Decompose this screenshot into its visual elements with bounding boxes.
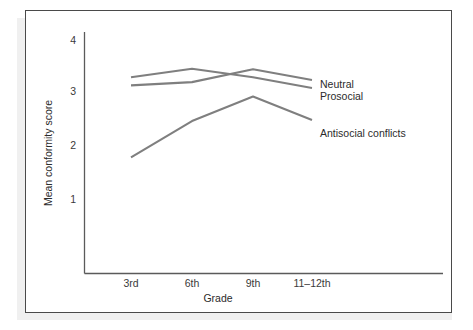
y-tick-label-4: 4 xyxy=(70,34,76,46)
y-axis-title: Mean conformity score xyxy=(42,100,54,206)
series-label-antisocial-conflicts: Antisocial conflicts xyxy=(320,127,406,139)
y-tick-label-3: 3 xyxy=(70,85,76,97)
x-axis-title: Grade xyxy=(203,292,232,304)
line-chart: 4 3 2 1 Mean conformity score 3rd 6th 9t… xyxy=(0,0,473,330)
x-tick-label-11-12th: 11–12th xyxy=(293,277,330,289)
series-label-neutral: Neutral xyxy=(320,78,354,90)
x-tick-label-3rd: 3rd xyxy=(123,277,138,289)
x-tick-label-6th: 6th xyxy=(185,277,200,289)
y-tick-label-2: 2 xyxy=(70,139,76,151)
y-tick-label-1: 1 xyxy=(70,193,76,205)
figure-canvas: 4 3 2 1 Mean conformity score 3rd 6th 9t… xyxy=(0,0,473,330)
series-line-neutral xyxy=(131,69,312,88)
x-tick-label-9th: 9th xyxy=(246,277,261,289)
series-label-prosocial: Prosocial xyxy=(320,90,363,102)
series-line-antisocial-conflicts xyxy=(131,97,312,158)
